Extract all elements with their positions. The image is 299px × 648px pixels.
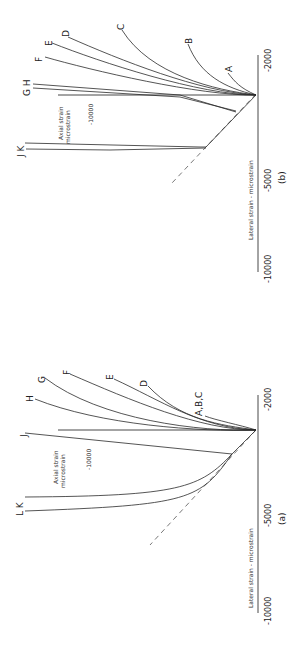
tick-10000-b: -10000 — [264, 255, 273, 283]
label-H-a: H — [25, 395, 35, 402]
tick-2000-a: -2000 — [264, 388, 273, 411]
axial-label-b-1: Axial strain — [57, 106, 64, 140]
panel-b: A B C D E F G H J K Axial strain microst… — [16, 24, 287, 283]
label-F-b: F — [34, 57, 44, 62]
panel-a: A,B,C D E F G H J L K Axial strain micro… — [15, 370, 287, 625]
axial-label-a-1: Axial strain — [52, 450, 59, 484]
label-C-b: C — [116, 24, 126, 30]
lateral-label-b: Lateral strain - microstrain — [247, 160, 254, 240]
tick-5000-a: -5000 — [264, 504, 273, 527]
label-D-b: D — [61, 30, 71, 37]
caption-b: (b) — [277, 171, 287, 184]
curve-G-a — [45, 378, 256, 430]
label-F-a: F — [62, 370, 72, 375]
label-D-a: D — [139, 380, 149, 387]
label-JK-b: J K — [16, 144, 26, 158]
label-ABC-a: A,B,C — [194, 392, 204, 416]
label-E-b: E — [44, 40, 54, 46]
caption-a: (a) — [277, 512, 287, 525]
label-A-b: A — [224, 65, 234, 72]
axial-tick-a: -10000 — [85, 449, 92, 470]
tick-2000-b: -2000 — [264, 49, 273, 72]
curve-E-a — [114, 379, 256, 430]
label-E-a: E — [105, 374, 115, 380]
lateral-label-a: Lateral strain - microstrain — [247, 528, 254, 608]
axial-tick-b: -10000 — [87, 104, 94, 125]
curve-B-b — [188, 44, 256, 95]
label-J-a: J — [19, 434, 29, 438]
axial-label-b-2: microstrain — [64, 110, 71, 144]
label-G-a: G — [37, 376, 47, 383]
tick-10000-a: -10000 — [264, 597, 273, 625]
tick-5000-b: -5000 — [264, 169, 273, 192]
curve-F-a — [70, 374, 256, 430]
label-B-b: B — [184, 38, 194, 44]
label-GH-b: G H — [22, 79, 32, 96]
axial-label-a-2: microstrain — [59, 454, 66, 488]
curve-J-a — [25, 430, 256, 454]
figure: A B C D E F G H J K Axial strain microst… — [0, 0, 299, 648]
label-LK-a: L K — [15, 501, 25, 516]
curve-K-b — [26, 148, 206, 150]
